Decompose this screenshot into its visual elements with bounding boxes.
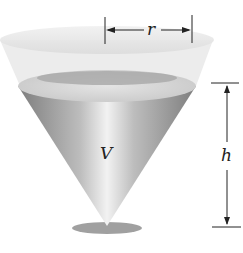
liquid-surface-far-edge bbox=[37, 71, 177, 85]
height-arrow-bottom bbox=[224, 217, 230, 225]
height-arrow-top bbox=[224, 85, 230, 93]
radius-label: r bbox=[147, 21, 155, 38]
cone-diagram bbox=[0, 0, 243, 253]
volume-label: V bbox=[100, 145, 112, 162]
height-label: h bbox=[221, 147, 232, 164]
